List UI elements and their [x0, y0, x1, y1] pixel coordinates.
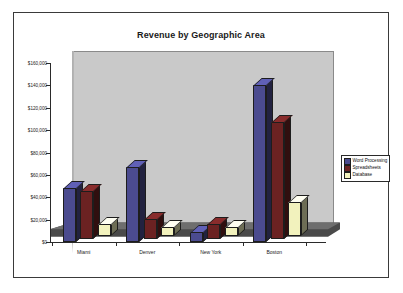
legend-item[interactable]: Spreadsheets	[344, 165, 387, 172]
legend-item-label: Spreadsheets	[353, 166, 381, 171]
y-axis-label: $0	[42, 240, 47, 245]
x-axis-category-label: Denver	[139, 249, 155, 255]
x-axis-category-label: Boston	[266, 249, 282, 255]
bar[interactable]	[161, 227, 174, 236]
bar[interactable]	[207, 224, 220, 239]
y-axis-label: $120,000	[28, 105, 47, 110]
bar[interactable]	[253, 85, 266, 242]
chart-frame: Revenue by Geographic Area $0$20,000$40,…	[13, 12, 389, 278]
y-axis-label: $20,000	[30, 217, 47, 222]
bar-front-face	[98, 224, 111, 236]
legend-swatch-icon	[344, 158, 351, 165]
y-axis-label: $40,000	[30, 195, 47, 200]
bar-front-face	[144, 219, 157, 239]
chart-title: Revenue by Geographic Area	[14, 30, 388, 40]
y-axis-label: $60,000	[30, 172, 47, 177]
bar[interactable]	[80, 191, 93, 239]
legend-item-label: Word Processing	[353, 159, 388, 164]
y-axis-label: $80,000	[30, 150, 47, 155]
y-axis-label: $100,000	[28, 128, 47, 133]
plot-area: $0$20,000$40,000$60,000$80,000$100,000$1…	[50, 51, 340, 253]
legend-swatch-icon	[344, 165, 351, 172]
bar-front-face	[80, 191, 93, 239]
bar[interactable]	[144, 219, 157, 239]
x-axis-tick	[306, 242, 307, 246]
bar-front-face	[288, 202, 301, 236]
chart-legend[interactable]: Word ProcessingSpreadsheetsDatabase	[341, 155, 390, 182]
x-axis-tick	[179, 242, 180, 246]
bar-front-face	[253, 85, 266, 242]
bar[interactable]	[126, 167, 139, 242]
bar[interactable]	[271, 122, 284, 239]
bar[interactable]	[225, 227, 238, 236]
bar-front-face	[207, 224, 220, 239]
bar-front-face	[126, 167, 139, 242]
bar[interactable]	[288, 202, 301, 236]
bar-front-face	[271, 122, 284, 239]
bar[interactable]	[190, 232, 203, 242]
legend-item-label: Database	[353, 173, 373, 178]
bar[interactable]	[63, 188, 76, 242]
legend-item[interactable]: Database	[344, 172, 387, 179]
bar-front-face	[161, 227, 174, 236]
legend-swatch-icon	[344, 172, 351, 179]
bar-front-face	[225, 227, 238, 236]
bar-front-face	[63, 188, 76, 242]
y-axis-label: $160,000	[28, 61, 47, 66]
bar[interactable]	[98, 224, 111, 236]
x-axis-tick	[52, 242, 53, 246]
x-axis-tick	[116, 242, 117, 246]
y-axis-label: $140,000	[28, 83, 47, 88]
bar-front-face	[190, 232, 203, 242]
legend-item[interactable]: Word Processing	[344, 158, 387, 165]
x-axis-line	[50, 242, 326, 243]
x-axis-category-label: Miami	[77, 249, 90, 255]
x-axis-category-label: New York	[200, 249, 221, 255]
x-axis-tick	[243, 242, 244, 246]
